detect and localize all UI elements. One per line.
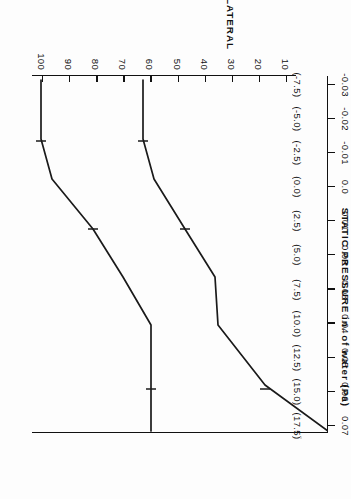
distance-tick-label: 20 (253, 59, 264, 70)
pressure-tick (328, 186, 335, 187)
distance-tick-label: 80 (90, 59, 101, 70)
pressure-tick (328, 254, 335, 255)
pressure-tick (328, 425, 335, 426)
pressure-tick-label: 0.0 (340, 170, 351, 204)
data-curves (32, 76, 328, 433)
pressure-tick (328, 118, 335, 119)
pressure-tick-label-pa: (10.0) (292, 307, 303, 341)
pressure-tick (328, 84, 335, 85)
pressure-tick (328, 220, 335, 221)
pressure-tick-label-pa: (-2.5) (292, 136, 303, 170)
pressure-tick (328, 288, 335, 289)
pressure-tick-label-pa: (5.0) (292, 239, 303, 273)
distance-tick (69, 75, 70, 82)
distance-tick (259, 75, 260, 82)
pressure-tick-label-pa: (2.5) (292, 204, 303, 238)
distance-tick-label: 100 (36, 53, 47, 70)
pressure-tick-label: -0.01 (340, 136, 351, 170)
pressure-tick-label-pa: (15.0) (292, 375, 303, 409)
distance-tick (205, 75, 206, 82)
pressure-tick-label-pa: (-7.5) (292, 68, 303, 102)
pressure-tick (328, 322, 335, 323)
distance-tick-label: 50 (172, 59, 183, 70)
distance-tick-label: 90 (63, 59, 74, 70)
pressure-tick-label-pa: (0.0) (292, 170, 303, 204)
distance-tick (96, 75, 97, 82)
distance-tick (123, 75, 124, 82)
pressure-tick (328, 391, 335, 392)
distance-tick-label: 60 (144, 59, 155, 70)
chart-page: (17.5)0.07(15.0)0.06(12.5)0.05(10.0)0.04… (0, 0, 351, 499)
pressure-tick-label: -0.03 (340, 68, 351, 102)
distance-tick (178, 75, 179, 82)
distance-tick (232, 75, 233, 82)
distance-tick (286, 75, 287, 82)
distance-tick-label: 40 (199, 59, 210, 70)
distance-tick (42, 75, 43, 82)
distance-tick-label: 30 (226, 59, 237, 70)
pressure-tick-label: 0.07 (340, 409, 351, 443)
pressure-tick-label-pa: (-5.0) (292, 102, 303, 136)
distance-tick-label: 10 (280, 59, 291, 70)
pressure-tick (328, 152, 335, 153)
pressure-tick-label-pa: (12.5) (292, 341, 303, 375)
scan-speck (300, 437, 302, 439)
series-upper-curve (41, 80, 151, 431)
rotated-figure: (17.5)0.07(15.0)0.06(12.5)0.05(10.0)0.04… (0, 0, 351, 499)
distance-tick (150, 75, 151, 82)
pressure-tick (328, 357, 335, 358)
pressure-tick-label-pa: (7.5) (292, 273, 303, 307)
pressure-tick-label: -0.02 (340, 102, 351, 136)
distance-axis-title: % DISTANCE ALONG LATERAL (225, 0, 236, 50)
pressure-axis-title: STATIC PRESSURE in. of water (Pa) (340, 208, 351, 407)
distance-tick-label: 70 (117, 59, 128, 70)
